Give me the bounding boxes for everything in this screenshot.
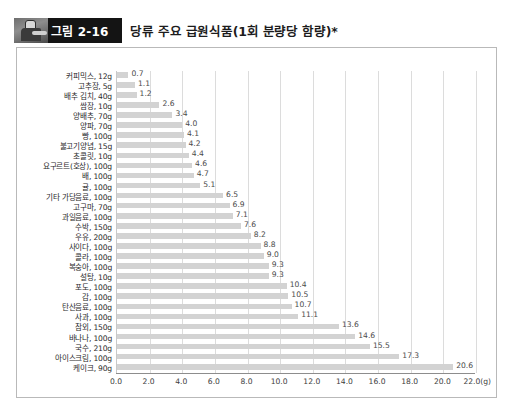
bar-chart: 커피믹스, 12g고추장, 5g배추 김치, 40g쌈장, 10g양배추, 70… (17, 48, 496, 397)
bar (117, 203, 230, 209)
bar (117, 213, 233, 219)
bar (117, 263, 269, 269)
bar-row: 7.6 (117, 222, 475, 231)
bar-row: 2.6 (117, 101, 475, 110)
bar (117, 112, 172, 118)
bar-value-label: 4.0 (182, 119, 197, 128)
bar-value-label: 9.3 (269, 270, 284, 279)
bar-row: 4.0 (117, 121, 475, 130)
bar (117, 324, 339, 330)
category-axis-labels: 커피믹스, 12g고추장, 5g배추 김치, 40g쌈장, 10g양배추, 70… (17, 71, 112, 373)
bar-row: 11.1 (117, 313, 475, 322)
bar-value-label: 4.7 (194, 169, 209, 178)
bar (117, 334, 355, 340)
bar-value-label: 9.0 (264, 250, 279, 259)
x-tick-label: 14.0 (336, 377, 353, 386)
bar-value-label: 3.4 (172, 109, 187, 118)
bar (117, 122, 182, 128)
bar (117, 283, 287, 289)
bar-value-label: 4.2 (186, 139, 201, 148)
bar-value-label: 5.1 (200, 180, 215, 189)
bar-value-label: 10.7 (292, 300, 312, 309)
bar (117, 364, 453, 370)
bar (117, 273, 269, 279)
bar (117, 163, 192, 169)
bar (117, 253, 264, 259)
x-tick-label: 16.0 (369, 377, 386, 386)
bar-value-label: 10.4 (287, 280, 307, 289)
bar-row: 6.5 (117, 192, 475, 201)
bar-value-label: 20.6 (453, 361, 473, 370)
x-tick-label: 6.0 (208, 377, 220, 386)
bar (117, 153, 189, 159)
x-axis-line (116, 373, 475, 374)
bar (117, 132, 184, 138)
bar-value-label: 6.9 (230, 200, 245, 209)
bar-row: 4.7 (117, 172, 475, 181)
figure-number-label: 그림 2-16 (48, 22, 122, 39)
bar (117, 193, 223, 199)
bar-row: 20.6 (117, 363, 475, 372)
bar (117, 142, 186, 148)
bar-value-label: 4.6 (192, 159, 207, 168)
x-tick-label: 20.0 (434, 377, 451, 386)
bar (117, 102, 159, 108)
bar-row: 10.7 (117, 303, 475, 312)
bar (117, 92, 137, 98)
bar-row: 4.2 (117, 141, 475, 150)
bar-value-label: 9.3 (269, 260, 284, 269)
bar-row: 1.1 (117, 81, 475, 90)
x-tick-label: 0.0 (110, 377, 122, 386)
x-tick-label: 2.0 (143, 377, 155, 386)
bar-value-label: 0.7 (128, 69, 143, 78)
bar (117, 344, 370, 350)
chart-frame: 커피믹스, 12g고추장, 5g배추 김치, 40g쌈장, 10g양배추, 70… (16, 47, 497, 398)
plot-area: 0.71.11.22.63.44.04.14.24.44.64.75.16.56… (116, 71, 475, 373)
bar-row: 17.3 (117, 353, 475, 362)
bar-row: 9.0 (117, 252, 475, 261)
gridline (476, 71, 477, 373)
x-tick-label: 18.0 (401, 377, 418, 386)
bar (117, 243, 261, 249)
bar (117, 72, 128, 78)
bar-row: 8.8 (117, 242, 475, 251)
bar (117, 314, 298, 320)
bar-value-label: 4.4 (189, 149, 204, 158)
bar-value-label: 4.1 (184, 129, 199, 138)
bar-value-label: 8.8 (261, 240, 276, 249)
bar-row: 7.1 (117, 212, 475, 221)
bar (117, 223, 241, 229)
bar-row: 8.2 (117, 232, 475, 241)
bar-value-label: 1.1 (135, 79, 150, 88)
category-label: 케이크, 90g (73, 362, 112, 373)
bar (117, 82, 135, 88)
x-tick-label: 12.0 (303, 377, 320, 386)
x-tick-label: 10.0 (271, 377, 288, 386)
bar-value-label: 2.6 (159, 99, 174, 108)
bar-value-label: 14.6 (355, 331, 375, 340)
x-tick-label: 22.0(g) (463, 377, 491, 386)
x-tick-label: 8.0 (240, 377, 252, 386)
bar-value-label: 13.6 (339, 320, 359, 329)
bar (117, 293, 288, 299)
bar-value-label: 7.1 (233, 210, 248, 219)
bar-value-label: 7.6 (241, 220, 256, 229)
bar-row: 6.9 (117, 202, 475, 211)
bar-row: 13.6 (117, 323, 475, 332)
bar-row: 4.4 (117, 152, 475, 161)
bar-row: 0.7 (117, 71, 475, 80)
bar (117, 304, 292, 310)
bar-value-label: 17.3 (399, 351, 419, 360)
bar (117, 233, 251, 239)
bar-value-label: 8.2 (251, 230, 266, 239)
bar-row: 9.3 (117, 262, 475, 271)
bar-row: 4.1 (117, 131, 475, 140)
bar-row: 3.4 (117, 111, 475, 120)
bar-row: 5.1 (117, 182, 475, 191)
figure-header: 그림 2-16 당류 주요 급원식품(1회 분량당 함량)* (0, 18, 513, 44)
chef-arm-shape (32, 31, 47, 35)
bar-row: 15.5 (117, 343, 475, 352)
bar (117, 183, 200, 189)
bar-row: 4.6 (117, 162, 475, 171)
bar-value-label: 15.5 (370, 341, 390, 350)
